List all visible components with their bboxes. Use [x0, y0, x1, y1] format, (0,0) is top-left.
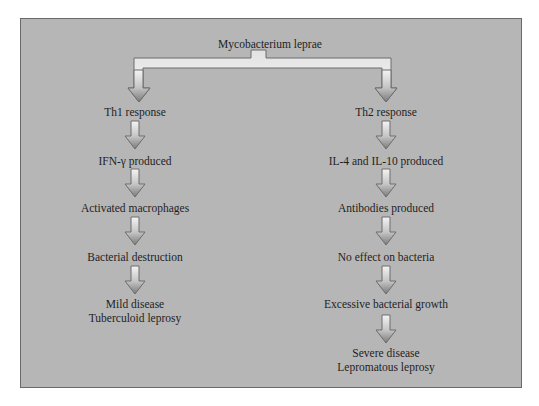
left-arrow-4-icon	[125, 266, 145, 294]
node-mild-disease-tuberculoid-leprosy: Mild disease Tuberculoid leprosy	[89, 297, 182, 325]
node-label: IL-4 and IL-10 produced	[329, 154, 444, 168]
left-arrow-2-icon	[125, 169, 145, 197]
node-label: Th2 response	[355, 105, 417, 119]
right-arrow-3-icon	[376, 217, 396, 245]
node-label: No effect on bacteria	[338, 250, 435, 264]
right-arrow-1-icon	[376, 121, 396, 149]
node-label: Th1 response	[104, 105, 166, 119]
node-label: Antibodies produced	[338, 201, 434, 215]
node-no-effect-on-bacteria: No effect on bacteria	[338, 250, 435, 264]
node-label-line1: Severe disease	[337, 346, 434, 360]
right-arrow-2-icon	[376, 169, 396, 197]
node-excessive-bacterial-growth: Excessive bacterial growth	[324, 297, 448, 311]
node-th2-response: Th2 response	[355, 105, 417, 119]
node-bacterial-destruction: Bacterial destruction	[87, 250, 182, 264]
right-arrow-4-icon	[376, 266, 396, 294]
node-label: Bacterial destruction	[87, 250, 182, 264]
node-il4-il10-produced: IL-4 and IL-10 produced	[329, 154, 444, 168]
node-activated-macrophages: Activated macrophages	[81, 201, 189, 215]
node-label-line2: Tuberculoid leprosy	[89, 311, 182, 325]
node-antibodies-produced: Antibodies produced	[338, 201, 434, 215]
node-label-line2: Lepromatous leprosy	[337, 360, 434, 374]
left-arrow-1-icon	[125, 121, 145, 149]
node-label: Activated macrophages	[81, 201, 189, 215]
left-arrow-3-icon	[125, 217, 145, 245]
node-ifn-gamma-produced: IFN-γ produced	[98, 154, 171, 168]
node-label-line1: Mild disease	[89, 297, 182, 311]
node-label: IFN-γ produced	[98, 154, 171, 168]
root-label: Mycobacterium leprae	[218, 37, 322, 51]
root-node-mycobacterium-leprae: Mycobacterium leprae	[218, 37, 322, 51]
node-severe-disease-lepromatous-leprosy: Severe disease Lepromatous leprosy	[337, 346, 434, 374]
right-arrow-5-icon	[376, 315, 396, 343]
branch-arrow-icon	[128, 50, 397, 102]
node-label: Excessive bacterial growth	[324, 297, 448, 311]
node-th1-response: Th1 response	[104, 105, 166, 119]
